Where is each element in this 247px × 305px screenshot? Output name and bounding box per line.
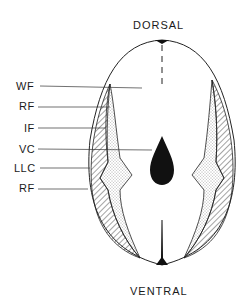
diagram-drawing xyxy=(0,0,247,305)
spinal-cord-diagram: DORSAL VENTRAL WF RF IF VC LLC RF xyxy=(0,0,247,305)
